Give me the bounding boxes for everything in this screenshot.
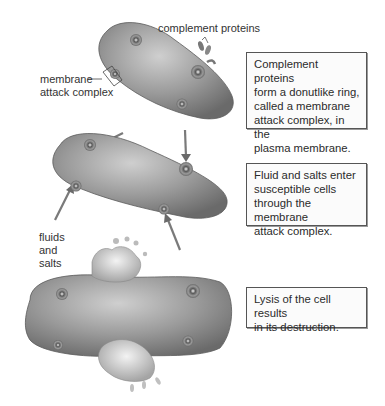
fluid-splash-top-icon <box>92 237 147 283</box>
pore-icon <box>177 99 188 110</box>
pore-icon <box>53 340 63 350</box>
caption-line: through the membrane <box>254 196 360 224</box>
caption-line: attack complex, in the <box>254 113 360 141</box>
donut-ring-icon <box>186 284 200 298</box>
label-fluids: fluids <box>39 231 65 244</box>
pore-icon <box>159 204 170 215</box>
caption-line: Fluid and salts enter <box>254 168 360 182</box>
pore-icon <box>130 34 142 46</box>
label-attack-complex: attack complex <box>40 86 113 99</box>
label-membrane: membrane <box>40 73 93 86</box>
step-3-caption-box: Lysis of the cell results in its destruc… <box>246 287 367 328</box>
caption-line: plasma membrane. <box>254 141 360 155</box>
pore-icon <box>84 139 96 151</box>
pore-icon <box>56 288 68 300</box>
caption-line: susceptible cells <box>254 182 360 196</box>
label-complement-proteins: complement proteins <box>158 22 260 35</box>
label-and: and <box>39 244 57 257</box>
complement-lysis-diagram: complement proteins membrane attack comp… <box>0 0 385 406</box>
pore-icon <box>71 181 82 192</box>
caption-line: in its destruction. <box>254 320 360 334</box>
pore-icon <box>183 336 194 347</box>
caption-line: Complement proteins <box>254 57 360 85</box>
donut-ring-icon <box>179 162 193 176</box>
caption-line: Lysis of the cell results <box>254 292 360 320</box>
cell-1 <box>88 23 233 119</box>
donut-ring-icon <box>191 65 205 79</box>
caption-line: called a membrane <box>254 99 360 113</box>
cell-2 <box>53 134 227 219</box>
caption-line: form a donutlike ring, <box>254 85 360 99</box>
step-2-caption-box: Fluid and salts enter susceptible cells … <box>246 163 367 226</box>
label-salts: salts <box>39 257 62 270</box>
caption-line: attack complex. <box>254 224 360 238</box>
step-1-caption-box: Complement proteins form a donutlike rin… <box>246 52 367 129</box>
